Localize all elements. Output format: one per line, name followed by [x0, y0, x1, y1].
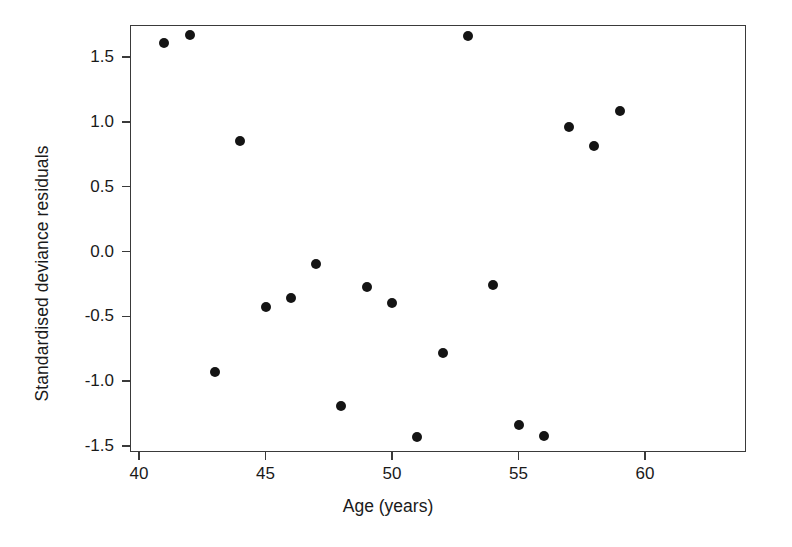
y-axis-tick-label: 0.0 — [42, 242, 114, 262]
x-axis-tick-label: 60 — [615, 464, 675, 484]
x-axis-tick-label: 45 — [236, 464, 296, 484]
x-axis-tick-label: 50 — [362, 464, 422, 484]
x-axis-title: Age (years) — [130, 496, 646, 517]
scatter-plot-figure: Standardised deviance residuals 1.51.00.… — [0, 0, 792, 547]
y-axis-tick-label: 1.5 — [42, 47, 114, 67]
y-axis-tick-label: 1.0 — [42, 112, 114, 132]
x-axis-tick — [138, 452, 139, 460]
y-axis-tick-label: -1.5 — [42, 436, 114, 456]
y-axis-tick — [122, 445, 130, 446]
x-axis-tick-label: 55 — [489, 464, 549, 484]
y-axis-tick-label: 0.5 — [42, 177, 114, 197]
y-axis-title: Standardised deviance residuals — [22, 0, 62, 547]
plot-frame — [130, 25, 746, 452]
y-axis-tick — [122, 316, 130, 317]
y-axis-tick — [122, 251, 130, 252]
y-axis-tick — [122, 380, 130, 381]
y-axis-tick-label: -1.0 — [42, 371, 114, 391]
y-axis-tick — [122, 121, 130, 122]
y-axis-tick — [122, 56, 130, 57]
x-axis-tick-label: 40 — [109, 464, 169, 484]
x-axis-tick — [644, 452, 645, 460]
x-axis-tick — [518, 452, 519, 460]
y-axis-tick — [122, 186, 130, 187]
x-axis-tick — [391, 452, 392, 460]
y-axis-tick-label: -0.5 — [42, 306, 114, 326]
x-axis-tick — [265, 452, 266, 460]
